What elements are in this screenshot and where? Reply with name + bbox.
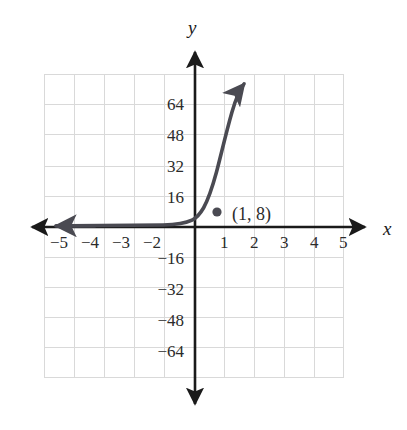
x-tick-neg-2: −2 (143, 234, 161, 251)
x-tick-neg-5: −5 (50, 234, 68, 251)
exponential-function-graph: 64 48 32 16 −16 −32 −48 −64 −5 −4 −3 −2 … (0, 0, 407, 430)
y-tick-neg-16: −16 (147, 250, 184, 267)
y-tick-neg-64: −64 (147, 343, 184, 360)
x-tick-3: 3 (280, 234, 289, 251)
data-point-marker (212, 207, 221, 216)
y-tick-16: 16 (156, 189, 184, 206)
x-tick-2: 2 (250, 234, 259, 251)
y-tick-neg-48: −48 (147, 312, 184, 329)
y-tick-32: 32 (156, 158, 184, 175)
y-tick-64: 64 (156, 96, 184, 113)
x-tick-4: 4 (310, 234, 319, 251)
x-tick-neg-3: −3 (112, 234, 130, 251)
y-tick-neg-32: −32 (147, 281, 184, 298)
point-annotation-1-8: (1, 8) (232, 205, 271, 223)
x-tick-neg-4: −4 (81, 234, 99, 251)
x-tick-5: 5 (339, 234, 348, 251)
plot-canvas (0, 0, 407, 430)
x-tick-1: 1 (220, 234, 229, 251)
y-tick-48: 48 (156, 127, 184, 144)
y-axis-label: y (188, 18, 196, 37)
x-axis-label: x (383, 219, 391, 238)
